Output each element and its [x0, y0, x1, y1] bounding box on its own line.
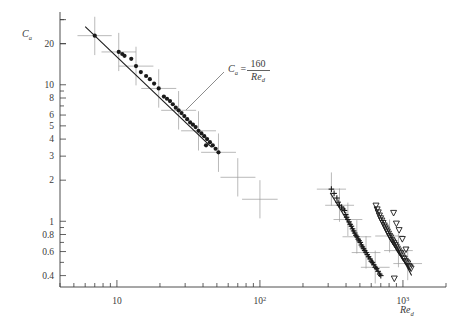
data-point [391, 276, 397, 282]
data-point [122, 54, 126, 58]
data-point [214, 147, 218, 151]
data-point [148, 77, 152, 81]
y-axis-title-subscript: a [29, 34, 32, 41]
annotation-equals: = [238, 63, 247, 74]
x-tick-label-text: 10 [112, 296, 122, 306]
error-bar [242, 180, 278, 218]
y-tick-label: 20 [45, 39, 55, 49]
y-tick-label: 0.8 [42, 230, 54, 240]
y-tick-label: 0.6 [42, 247, 54, 257]
annotation-numerator: 160 [251, 58, 266, 69]
x-tick-label: 10 [112, 296, 122, 306]
annotation-leader-line [186, 72, 224, 110]
data-point [117, 50, 121, 54]
data-point [182, 114, 186, 118]
data-point [93, 34, 97, 38]
figure-container: 201086543210.80.60.410102103CaRedCa =160… [0, 0, 452, 328]
y-tick-label: 2 [49, 175, 54, 185]
data-point [211, 143, 215, 147]
data-point [396, 228, 402, 234]
annotation-denominator-subscript: d [262, 76, 266, 83]
y-tick-label: 4 [49, 134, 54, 144]
x-axis-title-subscript: d [411, 310, 415, 317]
error-bar [220, 158, 255, 196]
annotation-denominator: Red [250, 71, 266, 83]
x-tick-label: 102 [254, 295, 267, 306]
y-tick-label: 8 [49, 93, 54, 103]
scatter-plot: 201086543210.80.60.410102103CaRedCa =160… [0, 0, 452, 328]
x-tick-exponent: 2 [263, 295, 266, 302]
data-point [403, 247, 409, 253]
data-point [171, 102, 175, 106]
y-tick-label: 0.4 [42, 271, 54, 281]
data-point [399, 237, 405, 243]
annotation-lhs: Ca = [228, 63, 246, 76]
data-point [185, 117, 189, 121]
data-point [393, 221, 399, 227]
data-point [194, 125, 198, 129]
data-point [168, 99, 172, 103]
x-tick-label-text: 102 [254, 295, 267, 306]
y-tick-label: 10 [45, 80, 55, 90]
data-point [129, 57, 133, 61]
data-point [157, 86, 161, 90]
y-tick-label: 1 [49, 217, 54, 227]
data-point [335, 199, 341, 205]
y-tick-label: 3 [49, 151, 54, 161]
data-point [134, 64, 138, 68]
theory-160-over-Red [85, 27, 212, 148]
data-point [204, 143, 208, 147]
y-tick-label: 6 [49, 110, 54, 120]
x-axis-title: Red [399, 304, 415, 317]
data-point [208, 140, 212, 144]
x-tick-exponent: 3 [406, 295, 409, 302]
data-point [144, 74, 148, 78]
data-point [152, 82, 156, 86]
y-tick-label: 5 [49, 121, 54, 131]
plus-series [329, 186, 384, 278]
data-point [373, 203, 379, 209]
y-axis-title: Ca [22, 28, 32, 41]
data-point [216, 150, 220, 154]
data-point [139, 70, 143, 74]
data-point [391, 210, 397, 216]
data-point [329, 186, 335, 192]
theory-line-label: Ca =160Red [228, 58, 270, 83]
